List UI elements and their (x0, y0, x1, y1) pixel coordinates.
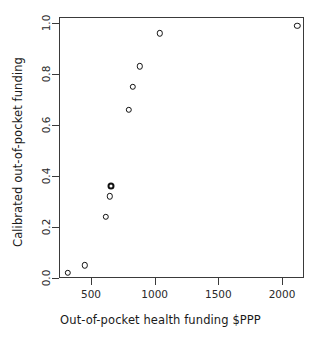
scatter-point (136, 63, 142, 69)
scatter-point (108, 183, 115, 190)
scatter-point (102, 214, 108, 220)
x-axis-label: Out-of-pocket health funding $PPP (0, 313, 321, 327)
scatter-point (65, 270, 71, 276)
scatter-point (125, 106, 131, 112)
data-points-layer (0, 0, 321, 346)
scatter-point (157, 30, 163, 36)
scatter-point (81, 262, 87, 268)
scatter-plot-figure: Calibrated out-of-pocket funding 0.00.20… (0, 0, 321, 346)
scatter-point (294, 22, 300, 28)
scatter-point (107, 193, 113, 199)
scatter-point (129, 84, 135, 90)
